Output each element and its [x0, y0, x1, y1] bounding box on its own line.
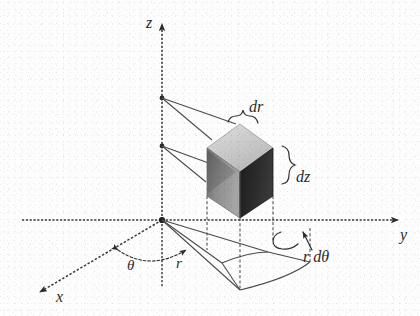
x-axis-label: x — [55, 288, 63, 305]
sector-inner-arc — [222, 252, 268, 263]
z-axis-label: z — [145, 14, 153, 31]
sector-outer-arc — [240, 262, 310, 290]
figure-canvas: z y x θ r dr dz r dθ — [0, 0, 420, 316]
guide-line-upper-b — [162, 98, 212, 140]
dz-brace — [282, 146, 295, 184]
dr-label: dr — [249, 98, 264, 115]
theta-angle-label: θ — [127, 257, 135, 273]
radius-ray-inner — [162, 220, 222, 263]
r-dtheta-label: r dθ — [303, 248, 329, 265]
y-axis-label: y — [398, 226, 408, 244]
radius-label: r — [176, 255, 182, 271]
guide-line-upper-a — [162, 98, 236, 124]
dz-label: dz — [296, 168, 311, 185]
guide-line-lower-b — [162, 146, 206, 182]
r-dtheta-brace — [273, 232, 298, 249]
radius-ray-outer — [162, 220, 240, 290]
guide-line-lower-a — [162, 146, 214, 165]
x-axis — [40, 220, 162, 292]
radius-ray-second — [162, 220, 268, 252]
cylindrical-coordinates-figure: z y x θ r dr dz r dθ — [0, 0, 420, 316]
differential-volume-box — [207, 124, 273, 218]
